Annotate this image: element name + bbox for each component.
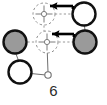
edge-ghostmid-down [47, 53, 48, 72]
arrow-middle [52, 30, 74, 38]
figure-panel: 6 [0, 0, 107, 105]
ghost-target-layer [33, 3, 58, 53]
edge-bottomleft-dot [32, 74, 45, 75]
node-small-hollow [45, 72, 51, 78]
node-bottom-left [9, 61, 32, 84]
crosshair-icon [41, 11, 46, 16]
node-top-right [73, 3, 96, 26]
crosshair-icon [44, 39, 49, 44]
node-mid-right [74, 31, 97, 54]
node-layer [4, 3, 97, 84]
figure-caption: 6 [0, 82, 107, 100]
node-mid-left [4, 31, 27, 54]
